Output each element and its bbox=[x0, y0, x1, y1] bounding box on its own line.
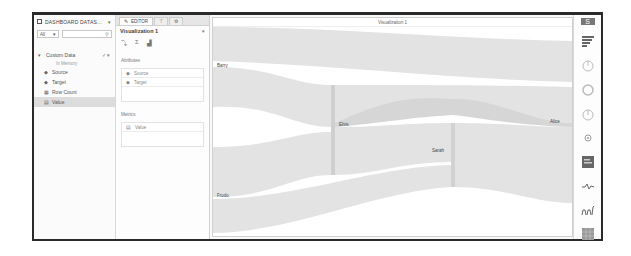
visualization-gallery: S bbox=[573, 15, 601, 239]
pie-icon[interactable] bbox=[581, 59, 595, 73]
field-source[interactable]: ◆ Source bbox=[34, 67, 115, 77]
network-icon[interactable] bbox=[581, 131, 595, 145]
sparkline-icon[interactable] bbox=[581, 179, 595, 193]
node-label-barry: Barry bbox=[217, 63, 228, 68]
tab-filter[interactable]: ⊤ bbox=[154, 17, 168, 25]
tab-editor[interactable]: ✎ EDITOR bbox=[119, 17, 153, 25]
search-input[interactable]: ⚲ bbox=[62, 30, 112, 38]
link-sarah-alice[interactable] bbox=[455, 123, 572, 203]
metrics-label: Metrics bbox=[116, 112, 209, 120]
field-value[interactable]: ▤ Value bbox=[34, 97, 115, 107]
dataset-title: DASHBOARD DATAS... bbox=[45, 19, 102, 25]
database-icon bbox=[37, 19, 42, 24]
swap-icon[interactable]: ⤵ bbox=[121, 38, 127, 47]
node-elvis-bar[interactable] bbox=[331, 85, 335, 175]
attribute-pill-target[interactable]: ◆ Target bbox=[122, 78, 203, 87]
attribute-icon: ◆ bbox=[44, 80, 49, 85]
editor-tabs: ✎ EDITOR ⊤ ⚙ bbox=[116, 15, 209, 26]
attribute-pill-source[interactable]: ◆ Source bbox=[122, 69, 203, 78]
node-label-elvis: Elvis bbox=[339, 122, 349, 127]
search-icon: ⚲ bbox=[105, 31, 109, 37]
tree-root-sublabel: In Memory bbox=[34, 60, 115, 67]
attribute-icon: ◆ bbox=[126, 70, 130, 76]
chevron-down-icon[interactable]: ▾ bbox=[108, 19, 111, 25]
dataset-tree: ▾ Custom Data ✓ ▾ In Memory ◆ Source ◆ T… bbox=[34, 50, 115, 107]
gauge-icon[interactable] bbox=[581, 107, 595, 121]
field-target[interactable]: ◆ Target bbox=[34, 77, 115, 87]
gear-icon: ⚙ bbox=[174, 19, 178, 24]
sum-icon[interactable]: Σ bbox=[135, 39, 139, 45]
app-window: DASHBOARD DATAS... ▾ All ▾ ⚲ ▾ Custom Da… bbox=[32, 12, 603, 241]
visualization-name[interactable]: Visualization 1 ▾ bbox=[116, 26, 209, 36]
attributes-dropzone[interactable]: ◆ Source ◆ Target bbox=[121, 68, 204, 102]
checkmark-icon[interactable]: ✓ ▾ bbox=[102, 52, 110, 58]
line-icon[interactable] bbox=[581, 203, 595, 217]
sankey-chart[interactable] bbox=[213, 27, 572, 236]
attribute-icon: ◆ bbox=[44, 70, 49, 75]
sankey-icon[interactable]: S bbox=[581, 18, 595, 25]
donut-icon[interactable] bbox=[581, 83, 595, 97]
object-filter-select[interactable]: All ▾ bbox=[37, 30, 59, 38]
metrics-dropzone[interactable]: ▤ Value bbox=[121, 122, 204, 147]
metric-icon: ▤ bbox=[44, 100, 49, 105]
chevron-down-icon[interactable]: ▾ bbox=[202, 28, 205, 34]
editor-toolbar: ⤵ Σ ▟ bbox=[116, 36, 209, 48]
funnel-icon[interactable] bbox=[581, 35, 595, 49]
filter-icon: ⊤ bbox=[159, 19, 163, 24]
field-row-count[interactable]: ▦ Row Count bbox=[34, 87, 115, 97]
pencil-icon: ✎ bbox=[124, 19, 128, 24]
visualization-title: Visualization 1 bbox=[213, 18, 572, 27]
tree-root-custom-data[interactable]: ▾ Custom Data ✓ ▾ bbox=[34, 50, 115, 60]
dataset-panel: DASHBOARD DATAS... ▾ All ▾ ⚲ ▾ Custom Da… bbox=[34, 15, 116, 239]
expand-icon[interactable]: ▾ bbox=[38, 53, 43, 58]
metric-icon: ▤ bbox=[126, 124, 131, 130]
bar-icon[interactable] bbox=[581, 155, 595, 169]
tab-format[interactable]: ⚙ bbox=[169, 17, 183, 25]
chart-type-icon[interactable]: ▟ bbox=[147, 39, 152, 46]
attribute-icon: ◆ bbox=[126, 79, 130, 85]
dataset-header[interactable]: DASHBOARD DATAS... ▾ bbox=[34, 15, 115, 28]
attributes-label: Attributes bbox=[116, 58, 209, 66]
metric-icon: ▦ bbox=[44, 90, 49, 95]
visualization-container[interactable]: Visualization 1 Barry bbox=[212, 17, 573, 237]
chevron-down-icon: ▾ bbox=[53, 32, 56, 37]
link-barry-elvis[interactable] bbox=[213, 67, 331, 127]
metric-pill-value[interactable]: ▤ Value bbox=[122, 123, 203, 132]
node-label-sarah: Sarah bbox=[432, 148, 444, 153]
node-label-frodo: Frodo bbox=[217, 193, 229, 198]
node-sarah-bar[interactable] bbox=[451, 123, 455, 187]
editor-panel: ✎ EDITOR ⊤ ⚙ Visualization 1 ▾ ⤵ Σ ▟ Att… bbox=[116, 15, 210, 239]
node-label-alice: Alice bbox=[550, 119, 560, 124]
grid-icon[interactable] bbox=[581, 227, 595, 241]
